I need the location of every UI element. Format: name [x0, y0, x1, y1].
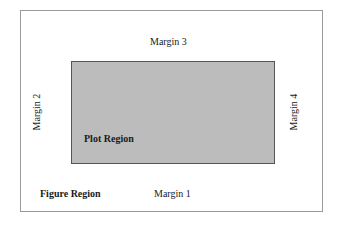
plot-region-box	[71, 61, 275, 164]
figure-region-label: Figure Region	[40, 188, 101, 200]
margin-4-label: Margin 4	[288, 94, 300, 131]
plot-region-label: Plot Region	[84, 133, 134, 145]
margin-3-label: Margin 3	[150, 36, 187, 48]
margin-2-label: Margin 2	[31, 94, 43, 131]
margin-1-label: Margin 1	[154, 188, 191, 200]
